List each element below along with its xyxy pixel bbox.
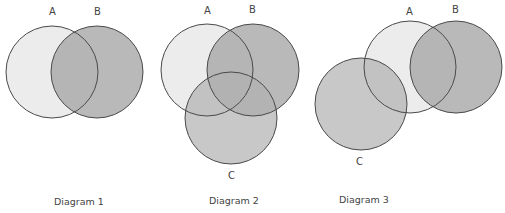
- set-a-label: A: [204, 5, 211, 16]
- set-b-label: B: [249, 4, 256, 15]
- set-a-label: A: [49, 6, 56, 17]
- set-c-label: C: [356, 156, 363, 167]
- set-c-label: C: [228, 170, 235, 181]
- diagram-1-caption: Diagram 1: [54, 196, 104, 207]
- set-b-label: B: [94, 6, 101, 17]
- diagram-2-caption: Diagram 2: [209, 195, 259, 206]
- set-b-label: B: [452, 4, 459, 15]
- diagram-3-caption: Diagram 3: [339, 194, 389, 205]
- diagram-2: A B C Diagram 2: [161, 4, 299, 206]
- diagram-3: A B C Diagram 3: [315, 4, 502, 205]
- venn-diagrams: A B Diagram 1 A B C Diagram 2 A B C Diag…: [0, 0, 505, 213]
- set-a-label: A: [406, 6, 413, 17]
- diagram-1: A B Diagram 1: [6, 6, 143, 207]
